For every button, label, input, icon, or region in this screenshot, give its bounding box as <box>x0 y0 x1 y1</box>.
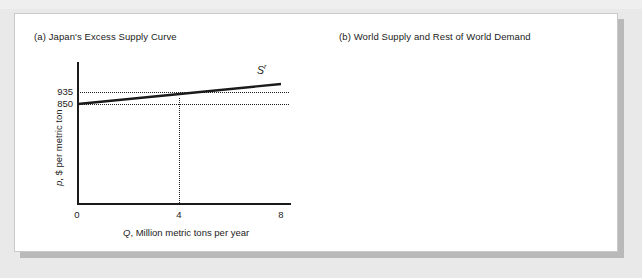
panel-a-y-axis-units: , $ per metric ton <box>53 109 64 180</box>
figure-card: (a) Japan's Excess Supply Curve p, $ per… <box>14 13 618 252</box>
panel-a-xtick-0: 0 <box>74 209 79 220</box>
panel-b-title: (b) World Supply and Rest of World Deman… <box>339 31 531 42</box>
panel-a-title: (a) Japan's Excess Supply Curve <box>34 31 177 42</box>
panel-a-y-axis-label: p, $ per metric ton <box>53 109 64 186</box>
panel-a-curves <box>77 62 289 205</box>
panel-a-x-axis-units: , Million metric tons per year <box>130 227 249 238</box>
panel-a-curve-label-base: S <box>257 64 264 76</box>
panel-a-plot-area: 935 850 0 4 8 Sr <box>77 62 281 205</box>
panel-a-x-axis-label: Q, Million metric tons per year <box>123 227 249 238</box>
panel-a-excess-supply-curve <box>78 84 281 104</box>
panel-a-y-axis-variable: p <box>53 181 64 186</box>
panel-a-ytick-850: 850 <box>57 98 73 109</box>
panel-b-world-supply-row-demand: (b) World Supply and Rest of World Deman… <box>317 14 619 251</box>
panel-a-japan-excess-supply: (a) Japan's Excess Supply Curve p, $ per… <box>15 14 317 251</box>
panel-a-xtick-8: 8 <box>278 209 283 220</box>
panel-a-curve-label-superscript: r <box>264 63 266 70</box>
top-page-strip <box>0 0 642 9</box>
panel-a-xtick-4: 4 <box>176 209 181 220</box>
panel-a-curve-label-excess-supply: Sr <box>257 63 266 76</box>
panel-a-ytick-935: 935 <box>57 86 73 97</box>
